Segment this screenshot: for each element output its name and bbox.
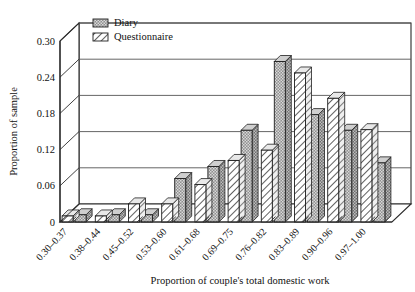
x-tick-label: 0.45–0.52 xyxy=(100,226,135,263)
y-tick-label: 0 xyxy=(50,217,55,228)
bar-side xyxy=(252,124,258,222)
bar-side xyxy=(239,154,245,222)
x-tick-label: 0.97–1.00 xyxy=(333,226,368,263)
x-tick-label: 0.30–0.37 xyxy=(34,226,69,263)
legend-swatch-questionnaire xyxy=(93,33,108,41)
chart-container: 00.060.120.180.240.300.30–0.370.38–0.440… xyxy=(0,0,415,292)
x-tick-label: 0.61–0.68 xyxy=(167,226,202,263)
bar-side xyxy=(206,179,212,222)
bar-questionnaire-8 xyxy=(328,92,345,222)
bar-side xyxy=(272,144,278,222)
y-tick-label: 0.06 xyxy=(37,180,55,191)
legend-swatch-diary xyxy=(93,19,108,27)
bar-side xyxy=(186,173,192,222)
legend-label-diary: Diary xyxy=(114,17,139,28)
legend-label-questionnaire: Questionnaire xyxy=(114,31,173,42)
x-tick-label: 0.90–0.96 xyxy=(299,226,334,263)
bar-questionnaire-9 xyxy=(361,124,378,222)
bar-face xyxy=(195,185,206,222)
bar-questionnaire-7 xyxy=(295,67,312,222)
bar-side xyxy=(339,92,345,222)
bar-questionnaire-2 xyxy=(129,198,146,222)
bar-side xyxy=(352,124,358,222)
bar-side xyxy=(372,124,378,222)
bar-face xyxy=(261,150,272,222)
y-tick-label: 0.30 xyxy=(37,36,55,47)
bar-chart-3d: 00.060.120.180.240.300.30–0.370.38–0.440… xyxy=(0,0,415,292)
y-axis-title: Proportion of sample xyxy=(8,87,19,176)
bar-side xyxy=(385,157,391,222)
bar-face xyxy=(162,204,173,222)
left-wall xyxy=(60,23,79,222)
bar-side xyxy=(319,109,325,222)
bar-face xyxy=(361,130,372,222)
y-tick-label: 0.12 xyxy=(37,144,55,155)
x-tick-label: 0.38–0.44 xyxy=(67,226,102,263)
x-tick-label: 0.69–0.75 xyxy=(200,226,235,263)
bar-questionnaire-4 xyxy=(195,179,212,222)
y-tick-label: 0.18 xyxy=(37,108,55,119)
bar-questionnaire-5 xyxy=(228,154,245,222)
bar-questionnaire-3 xyxy=(162,198,179,222)
bar-face xyxy=(228,160,239,222)
x-tick-label: 0.53–0.60 xyxy=(133,226,168,263)
y-tick-label: 0.24 xyxy=(37,72,56,83)
x-tick-label: 0.76–0.82 xyxy=(233,226,268,263)
x-axis-title: Proportion of couple's total domestic wo… xyxy=(151,275,331,286)
bar-face xyxy=(295,73,306,222)
x-tick-label: 0.83–0.89 xyxy=(266,226,301,263)
bar-side xyxy=(285,56,291,222)
bar-side xyxy=(306,67,312,222)
bar-questionnaire-6 xyxy=(261,144,278,222)
bar-side xyxy=(219,160,225,222)
bar-face xyxy=(328,98,339,222)
bar-face xyxy=(129,204,140,222)
